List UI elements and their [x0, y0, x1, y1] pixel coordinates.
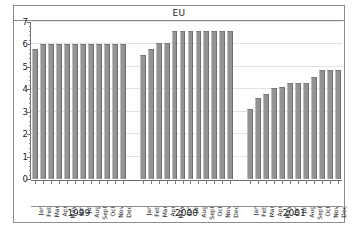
x-tick: [75, 181, 76, 184]
chart-title-band: EU: [14, 6, 344, 21]
y-tick-minor: [29, 148, 31, 149]
bar: [72, 44, 78, 179]
bar: [120, 44, 126, 179]
y-tick-5: [27, 67, 31, 68]
y-tick-minor: [29, 143, 31, 144]
bar: [80, 44, 86, 179]
y-tick-minor: [29, 121, 31, 122]
bar: [227, 31, 233, 179]
y-tick-minor: [29, 49, 31, 50]
bar: [56, 44, 62, 179]
y-tick-minor: [29, 76, 31, 77]
y-tick-minor: [29, 98, 31, 99]
page-title: EU: [173, 9, 186, 18]
y-tick-minor: [29, 62, 31, 63]
x-tick: [159, 181, 160, 184]
bar: [148, 49, 154, 179]
year-label-1999: 1999: [31, 209, 127, 218]
bar: [211, 31, 217, 179]
y-tick-minor: [29, 35, 31, 36]
bar: [64, 44, 70, 179]
x-tick: [298, 181, 299, 184]
x-tick: [99, 181, 100, 184]
bar-series: [31, 22, 342, 179]
bar: [140, 55, 146, 179]
x-tick: [214, 181, 215, 184]
y-tick-minor: [29, 130, 31, 131]
x-axis-line: [31, 180, 342, 181]
y-tick-6: [27, 44, 31, 45]
x-tick: [230, 181, 231, 184]
x-tick: [190, 181, 191, 184]
x-tick: [35, 181, 36, 184]
y-tick-7: [27, 22, 31, 23]
bar: [279, 87, 285, 179]
bar: [335, 70, 341, 179]
bar: [196, 31, 202, 179]
x-tick: [322, 181, 323, 184]
bar: [172, 31, 178, 179]
y-tick-4: [27, 89, 31, 90]
y-tick-minor: [29, 139, 31, 140]
bar: [180, 31, 186, 179]
bar: [164, 43, 170, 179]
x-tick: [258, 181, 259, 184]
bar: [247, 109, 253, 179]
x-tick: [59, 181, 60, 184]
bar: [263, 94, 269, 179]
bar: [311, 77, 317, 179]
y-tick-minor: [29, 80, 31, 81]
bar: [219, 31, 225, 179]
x-tick: [330, 181, 331, 184]
bar: [40, 44, 46, 179]
y-tick-minor: [29, 40, 31, 41]
x-tick: [222, 181, 223, 184]
y-tick-minor: [29, 31, 31, 32]
y-tick-3: [27, 112, 31, 113]
y-tick-minor: [29, 94, 31, 95]
x-tick: [91, 181, 92, 184]
plot-area: [31, 22, 342, 179]
bar: [156, 43, 162, 179]
x-tick: [198, 181, 199, 184]
x-tick: [274, 181, 275, 184]
y-tick-minor: [29, 175, 31, 176]
y-tick-minor: [29, 170, 31, 171]
bar: [295, 83, 301, 179]
y-tick-minor: [29, 116, 31, 117]
x-tick: [290, 181, 291, 184]
year-label-2000: 2000: [139, 209, 235, 218]
x-tick: [250, 181, 251, 184]
y-tick-minor: [29, 58, 31, 59]
bar: [203, 31, 209, 179]
x-tick: [314, 181, 315, 184]
y-tick-minor: [29, 53, 31, 54]
bar: [112, 44, 118, 179]
bar: [48, 44, 54, 179]
y-tick-minor: [29, 71, 31, 72]
x-tick: [67, 181, 68, 184]
x-axis-year-band: 199920002001: [31, 206, 342, 223]
x-tick: [151, 181, 152, 184]
bar: [88, 44, 94, 179]
chart-figure: EU 01234567 JanFebMarAprMayJunJulAugSept…: [0, 0, 356, 239]
bar: [319, 70, 325, 179]
x-tick: [206, 181, 207, 184]
bar: [287, 83, 293, 179]
y-tick-minor: [29, 107, 31, 108]
x-tick: [167, 181, 168, 184]
y-tick-0: [27, 179, 31, 180]
y-tick-1: [27, 157, 31, 158]
x-tick: [83, 181, 84, 184]
x-tick: [107, 181, 108, 184]
bar: [96, 44, 102, 179]
bar: [255, 98, 261, 179]
y-tick-minor: [29, 103, 31, 104]
y-tick-minor: [29, 161, 31, 162]
bar: [327, 70, 333, 179]
x-tick: [175, 181, 176, 184]
y-tick-2: [27, 134, 31, 135]
x-tick: [306, 181, 307, 184]
y-tick-minor: [29, 152, 31, 153]
x-tick: [143, 181, 144, 184]
